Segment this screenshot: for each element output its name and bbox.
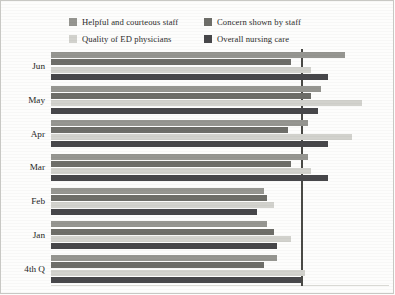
- legend-item-overall-nursing-care: Overall nursing care: [204, 34, 329, 44]
- bar: [51, 277, 301, 283]
- bar: [51, 74, 328, 80]
- legend-swatch-icon: [69, 35, 77, 43]
- bar: [51, 229, 274, 235]
- bar: [51, 93, 311, 99]
- legend-swatch-icon: [204, 35, 212, 43]
- y-axis-tick-label: Feb: [31, 196, 45, 206]
- chart-frame: Helpful and courteous staff Concern show…: [0, 0, 394, 294]
- plot-area: JunMayAprMarFebJan4th Q: [51, 49, 389, 286]
- bar: [51, 221, 267, 227]
- y-axis-tick-label: Mar: [30, 162, 45, 172]
- legend-item-helpful-and-courteous-staff: Helpful and courteous staff: [69, 17, 204, 27]
- bar: [51, 270, 305, 276]
- legend-swatch-icon: [204, 18, 212, 26]
- legend-label: Quality of ED physicians: [82, 34, 172, 44]
- y-axis-tick-label: 4th Q: [24, 264, 45, 274]
- bar: [51, 86, 321, 92]
- legend-swatch-icon: [69, 18, 77, 26]
- bar: [51, 120, 308, 126]
- bar: [51, 161, 291, 167]
- chart-legend: Helpful and courteous staff Concern show…: [69, 13, 329, 47]
- bar: [51, 255, 277, 261]
- bar-group: 4th Q: [51, 252, 389, 286]
- y-axis-tick-label: May: [28, 95, 45, 105]
- bar: [51, 236, 291, 242]
- bar: [51, 100, 362, 106]
- bar: [51, 141, 328, 147]
- bar: [51, 175, 328, 181]
- bar: [51, 134, 352, 140]
- bar: [51, 108, 318, 114]
- legend-label: Helpful and courteous staff: [82, 17, 178, 27]
- bar: [51, 209, 257, 215]
- bar-group: Feb: [51, 184, 389, 218]
- y-axis-tick-label: Jan: [33, 230, 45, 240]
- y-axis-tick-label: Apr: [31, 129, 45, 139]
- legend-label: Overall nursing care: [217, 34, 289, 44]
- bar-group: Jun: [51, 49, 389, 83]
- legend-label: Concern shown by staff: [217, 17, 301, 27]
- bar-group: Mar: [51, 151, 389, 185]
- bar: [51, 127, 288, 133]
- bar-group: Jan: [51, 218, 389, 252]
- bar: [51, 59, 291, 65]
- bar: [51, 243, 277, 249]
- bar: [51, 52, 345, 58]
- y-axis-tick-label: Jun: [32, 61, 45, 71]
- bar: [51, 168, 311, 174]
- legend-item-quality-of-ed-physicians: Quality of ED physicians: [69, 34, 204, 44]
- bar: [51, 262, 264, 268]
- bar: [51, 202, 274, 208]
- bar: [51, 154, 308, 160]
- bar-group: Apr: [51, 117, 389, 151]
- legend-item-concern-shown-by-staff: Concern shown by staff: [204, 17, 329, 27]
- bar: [51, 195, 267, 201]
- bar: [51, 188, 264, 194]
- bar-group: May: [51, 83, 389, 117]
- bar: [51, 67, 311, 73]
